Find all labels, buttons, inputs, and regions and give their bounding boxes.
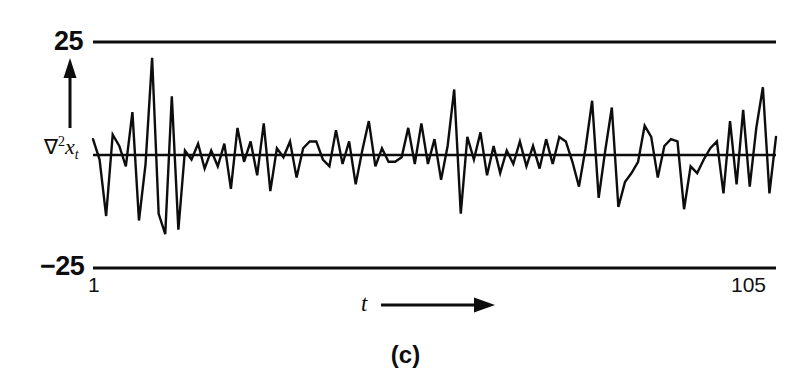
x-tick-label-end: 105 bbox=[731, 274, 766, 295]
lower-limit-label: −25 bbox=[40, 253, 84, 280]
upper-limit-label: 25 bbox=[54, 28, 83, 55]
figure-caption: (c) bbox=[0, 343, 811, 367]
figure-container: 25 −25 1 105 ∇2xt t (c) bbox=[0, 0, 811, 380]
y-axis-arrow bbox=[64, 58, 77, 128]
time-series-plot bbox=[0, 0, 811, 380]
y-axis-label-subscript: t bbox=[75, 147, 79, 162]
data-series-line bbox=[93, 58, 776, 234]
x-tick-label-start: 1 bbox=[88, 274, 100, 295]
y-axis-label-exponent: 2 bbox=[58, 134, 65, 149]
x-axis-arrow bbox=[381, 298, 495, 313]
y-axis-label: ∇2xt bbox=[44, 136, 79, 158]
y-axis-label-variable: x bbox=[65, 134, 75, 159]
reference-lines bbox=[93, 42, 776, 268]
x-axis-label: t bbox=[361, 292, 367, 315]
nabla-icon: ∇ bbox=[44, 135, 58, 159]
